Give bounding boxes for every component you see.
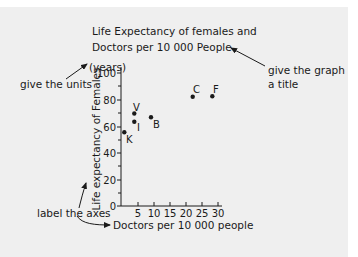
x-tick-labels: 5 10 15 20 25 30: [135, 208, 225, 219]
y-tick-20: 20: [103, 175, 116, 186]
x-tick-15: 15: [164, 208, 177, 219]
point-i: [132, 120, 136, 124]
x-tick-5: 5: [135, 208, 141, 219]
scatter-plot: 100 80 60 40 20 0 5 10 15 20 25 30 K V I…: [0, 0, 358, 257]
point-label-v: V: [133, 102, 140, 113]
y-tick-40: 40: [103, 148, 116, 159]
arrow-y-axis-icon: [79, 183, 86, 208]
data-points: [122, 94, 214, 134]
point-c: [191, 95, 195, 99]
x-tick-20: 20: [180, 208, 193, 219]
x-axis: [121, 202, 222, 206]
arrow-title-icon: [231, 48, 265, 66]
y-axis: [117, 67, 121, 206]
y-tick-0: 0: [110, 201, 116, 212]
point-label-f: F: [213, 84, 219, 95]
point-labels: K V I B C F: [126, 84, 219, 145]
arrow-x-axis-icon: [77, 216, 110, 225]
x-tick-10: 10: [148, 208, 161, 219]
y-tick-labels: 100 80 60 40 20 0: [97, 68, 116, 212]
x-tick-30: 30: [212, 208, 225, 219]
point-label-b: B: [153, 119, 160, 130]
y-tick-60: 60: [103, 122, 116, 133]
y-tick-80: 80: [103, 95, 116, 106]
arrow-units-icon: [66, 64, 87, 79]
y-tick-100: 100: [97, 68, 116, 79]
annotation-arrows: [66, 48, 265, 225]
x-tick-25: 25: [196, 208, 209, 219]
point-label-i: I: [137, 122, 140, 133]
point-label-k: K: [126, 134, 133, 145]
point-label-c: C: [193, 84, 200, 95]
